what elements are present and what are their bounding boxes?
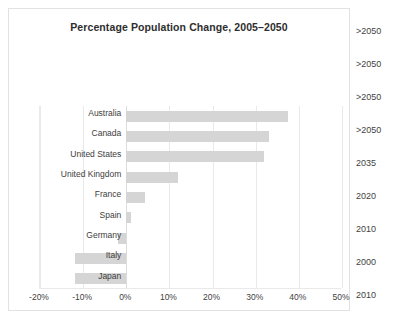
peak-year-label: >2050	[356, 59, 381, 69]
category-label: United Kingdom	[61, 169, 121, 179]
peak-year-label: 2020	[356, 191, 376, 201]
bar-united-kingdom	[126, 172, 178, 183]
x-axis-tick-labels: -20%-10%0%10%20%30%40%50%	[39, 292, 341, 312]
bar-rows: AustraliaCanadaUnited StatesUnited Kingd…	[40, 106, 341, 288]
bar-united-states	[126, 151, 264, 162]
bar-row: Japan	[40, 269, 341, 289]
x-tick-label: 20%	[203, 292, 220, 302]
category-label: France	[95, 189, 121, 199]
gridline-50	[342, 106, 343, 288]
category-label: Canada	[92, 128, 122, 138]
x-tick-label: -20%	[29, 292, 49, 302]
chart-screenshot: Percentage Population Change, 2005–2050 …	[0, 0, 416, 329]
plot-area: AustraliaCanadaUnited StatesUnited Kingd…	[39, 106, 341, 289]
peak-year-label: >2050	[356, 26, 381, 36]
population-peak-year-labels: >2050>2050>2050>205020352020201020002010	[352, 0, 398, 329]
peak-year-label: 2035	[356, 158, 376, 168]
bar-row: France	[40, 187, 341, 207]
peak-year-label: >2050	[356, 125, 381, 135]
bar-france	[126, 192, 145, 203]
category-label: Japan	[98, 271, 121, 281]
x-tick-label: 0%	[119, 292, 131, 302]
category-label: United States	[70, 149, 121, 159]
bar-row: United States	[40, 147, 341, 167]
category-label: Spain	[100, 210, 122, 220]
x-tick-label: 40%	[289, 292, 306, 302]
x-tick-label: 50%	[332, 292, 349, 302]
bar-row: Canada	[40, 126, 341, 146]
bar-canada	[126, 131, 268, 142]
bar-row: Spain	[40, 208, 341, 228]
peak-year-label: 2010	[356, 290, 376, 300]
chart-frame: Percentage Population Change, 2005–2050 …	[8, 8, 350, 311]
category-label: Italy	[106, 250, 122, 260]
category-label: Germany	[86, 230, 121, 240]
bar-spain	[126, 212, 130, 223]
x-tick-label: 10%	[160, 292, 177, 302]
category-label: Australia	[88, 108, 121, 118]
peak-year-label: 2010	[356, 224, 376, 234]
x-tick-label: 30%	[246, 292, 263, 302]
peak-year-label: 2000	[356, 257, 376, 267]
bar-row: Germany	[40, 228, 341, 248]
bar-row: United Kingdom	[40, 167, 341, 187]
peak-year-label: >2050	[356, 92, 381, 102]
x-tick-label: -10%	[72, 292, 92, 302]
bar-row: Italy	[40, 248, 341, 268]
chart-title: Percentage Population Change, 2005–2050	[9, 21, 349, 33]
bar-row: Australia	[40, 106, 341, 126]
bar-australia	[126, 111, 288, 122]
